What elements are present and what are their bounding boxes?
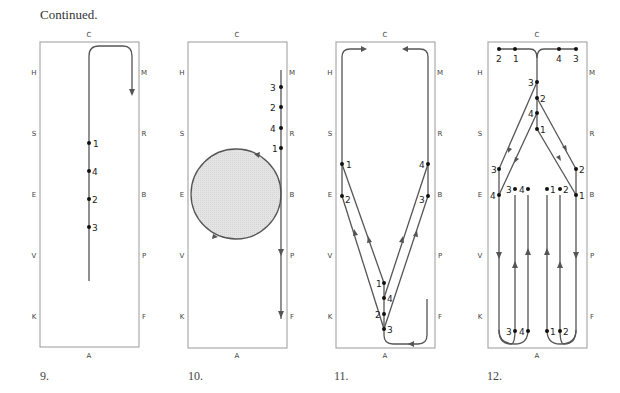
marker-label: 2 bbox=[563, 185, 569, 195]
letter-a: A bbox=[383, 352, 388, 360]
letter-a: A bbox=[235, 352, 240, 360]
marker-label: 1 bbox=[93, 139, 99, 149]
marker-dot bbox=[526, 329, 530, 333]
marker-dot bbox=[557, 47, 561, 51]
marker-dot bbox=[574, 193, 578, 197]
marker-dot bbox=[535, 127, 539, 131]
letter-c: C bbox=[87, 31, 92, 39]
marker-dot bbox=[497, 193, 501, 197]
marker-dot bbox=[535, 96, 539, 100]
letter-b: B bbox=[290, 191, 295, 199]
letter-h: H bbox=[31, 69, 36, 77]
marker-dot bbox=[513, 47, 517, 51]
letter-m: M bbox=[589, 69, 595, 77]
letter-e: E bbox=[180, 191, 184, 199]
marker-dot bbox=[497, 47, 501, 51]
letter-h: H bbox=[477, 69, 482, 77]
letter-p: P bbox=[590, 252, 594, 260]
marker-label: 4 bbox=[528, 109, 534, 119]
diagram-caption: 12. bbox=[487, 369, 502, 383]
marker-dot bbox=[87, 197, 91, 201]
diagram-10: C A H S E V K M R B P F 3 2 4 1 10. bbox=[179, 31, 295, 383]
marker-label: 3 bbox=[506, 185, 512, 195]
letter-m: M bbox=[141, 69, 147, 77]
letter-a: A bbox=[535, 352, 540, 360]
letter-p: P bbox=[142, 252, 146, 260]
letter-e: E bbox=[478, 191, 482, 199]
marker-label: 4 bbox=[519, 185, 525, 195]
diagram-12: C A H S E V K M R B P F bbox=[477, 31, 595, 383]
letter-p: P bbox=[438, 252, 442, 260]
marker-label: 1 bbox=[579, 191, 585, 201]
diagram-caption: 9. bbox=[40, 369, 49, 383]
marker-label: 4 bbox=[490, 191, 496, 201]
diagram-canvas: C A H S E V K M R B P F 1 4 2 3 9. C A H… bbox=[0, 0, 620, 393]
letter-a: A bbox=[87, 352, 92, 360]
marker-dot bbox=[545, 187, 549, 191]
marker-label: 2 bbox=[270, 103, 276, 113]
marker-dot bbox=[87, 225, 91, 229]
marker-label: 1 bbox=[376, 279, 382, 289]
marker-dot bbox=[382, 312, 386, 316]
marker-dot bbox=[87, 141, 91, 145]
marker-label: 4 bbox=[519, 327, 525, 337]
letter-f: F bbox=[590, 313, 594, 321]
marker-label: 1 bbox=[513, 54, 519, 64]
marker-label: 1 bbox=[346, 160, 352, 170]
letter-r: R bbox=[590, 130, 595, 138]
letter-v: V bbox=[180, 252, 185, 260]
marker-dot bbox=[340, 194, 344, 198]
marker-label: 3 bbox=[270, 83, 276, 93]
letter-r: R bbox=[438, 130, 443, 138]
letter-f: F bbox=[290, 313, 294, 321]
marker-label: 1 bbox=[272, 144, 278, 154]
marker-dot bbox=[426, 162, 430, 166]
letter-b: B bbox=[438, 191, 443, 199]
marker-label: 1 bbox=[540, 125, 546, 135]
marker-label: 2 bbox=[579, 165, 585, 175]
letter-e: E bbox=[328, 191, 332, 199]
circle-figure bbox=[191, 149, 281, 239]
marker-label: 4 bbox=[556, 54, 562, 64]
letter-b: B bbox=[142, 191, 147, 199]
letter-m: M bbox=[437, 69, 443, 77]
marker-dot bbox=[545, 329, 549, 333]
letter-e: E bbox=[32, 191, 36, 199]
marker-dot bbox=[382, 281, 386, 285]
marker-label: 3 bbox=[419, 195, 425, 205]
marker-label: 4 bbox=[92, 167, 98, 177]
marker-label: 1 bbox=[550, 327, 556, 337]
diagram-11: C A H S E V K M R B P F 1 2 bbox=[327, 31, 443, 383]
letter-k: K bbox=[478, 313, 483, 321]
marker-dot bbox=[574, 47, 578, 51]
diagram-caption: 11. bbox=[334, 369, 349, 383]
marker-dot bbox=[279, 105, 283, 109]
diagram-caption: 10. bbox=[188, 369, 203, 383]
marker-dot bbox=[426, 194, 430, 198]
marker-dot bbox=[574, 167, 578, 171]
letter-k: K bbox=[32, 313, 37, 321]
marker-dot bbox=[87, 169, 91, 173]
letter-m: M bbox=[289, 69, 295, 77]
letter-k: K bbox=[328, 313, 333, 321]
marker-label: 2 bbox=[375, 310, 381, 320]
marker-dot bbox=[497, 167, 501, 171]
marker-dot bbox=[382, 296, 386, 300]
letter-k: K bbox=[180, 313, 185, 321]
letter-f: F bbox=[438, 313, 442, 321]
marker-label: 4 bbox=[419, 160, 425, 170]
letter-r: R bbox=[290, 130, 295, 138]
marker-label: 3 bbox=[491, 165, 497, 175]
marker-label: 3 bbox=[506, 327, 512, 337]
marker-label: 4 bbox=[270, 124, 276, 134]
marker-label: 2 bbox=[345, 195, 351, 205]
marker-dot bbox=[279, 146, 283, 150]
marker-label: 3 bbox=[573, 54, 579, 64]
marker-label: 3 bbox=[528, 78, 534, 88]
marker-label: 2 bbox=[563, 327, 569, 337]
letter-v: V bbox=[32, 252, 37, 260]
marker-dot bbox=[340, 162, 344, 166]
marker-dot bbox=[558, 329, 562, 333]
letter-s: S bbox=[180, 130, 185, 138]
letter-r: R bbox=[142, 130, 147, 138]
